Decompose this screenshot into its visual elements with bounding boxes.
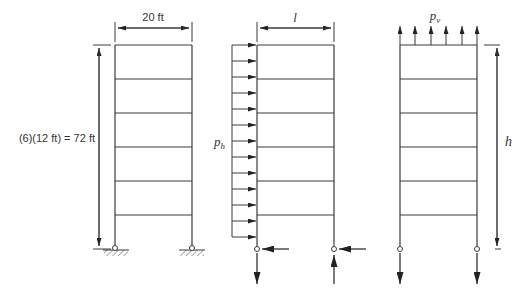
width-dimension — [115, 22, 192, 42]
building-frame — [115, 45, 192, 246]
span-dimension — [257, 22, 334, 42]
pinned-support-right — [179, 246, 205, 257]
vertical-load-arrows — [400, 26, 477, 45]
height-symbol-label: h — [505, 134, 512, 149]
height-dimension — [93, 45, 111, 249]
reactions-frame-2 — [255, 247, 367, 285]
horizontal-load-frame — [257, 45, 334, 246]
reactions-frame-3 — [398, 247, 480, 285]
h-dimension — [484, 45, 501, 249]
horizontal-load-label: ph — [213, 134, 226, 151]
pinned-support-left — [103, 246, 129, 257]
height-dimension-label: (6)(12 ft) = 72 ft — [19, 132, 95, 144]
vertical-load-label: pv — [429, 8, 441, 25]
portal-frame-diagram: 20 ft (6)(12 ft) = 72 ft l — [0, 0, 522, 296]
lateral-load-arrows — [232, 45, 256, 237]
span-label: l — [293, 10, 297, 25]
vertical-load-frame — [400, 45, 477, 246]
width-dimension-label: 20 ft — [142, 11, 163, 23]
